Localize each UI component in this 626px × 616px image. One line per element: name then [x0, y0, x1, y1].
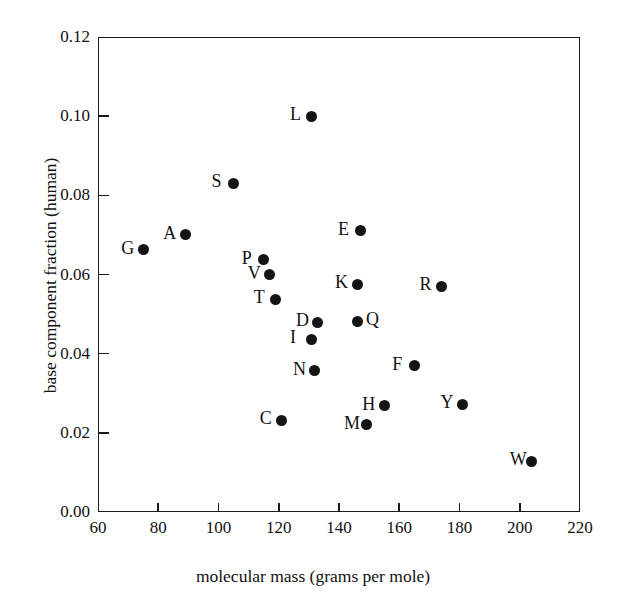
x-tick-mark — [519, 503, 521, 512]
x-tick-mark — [459, 503, 461, 512]
data-point-label: S — [212, 172, 222, 190]
y-axis-title: base component fraction (human) — [40, 36, 61, 516]
x-tick-label: 120 — [249, 519, 309, 536]
data-point-label: M — [344, 414, 360, 432]
y-tick-mark — [98, 353, 109, 355]
scatter-plot-figure: GASPVTCLINDQKEMHFRYW 6080100120140160180… — [0, 0, 626, 616]
x-tick-mark — [218, 503, 220, 512]
data-point[interactable] — [306, 334, 317, 345]
data-point-label: C — [260, 409, 272, 427]
data-point-label: V — [248, 264, 261, 282]
y-tick-mark — [98, 274, 109, 276]
data-point[interactable] — [352, 279, 363, 290]
data-point-label: N — [293, 360, 306, 378]
data-point-label: G — [121, 239, 134, 257]
data-point-label: E — [338, 220, 349, 238]
data-point[interactable] — [270, 294, 281, 305]
data-point-label: Y — [441, 393, 454, 411]
x-tick-label: 200 — [490, 519, 550, 536]
x-tick-label: 160 — [369, 519, 429, 536]
data-point[interactable] — [361, 419, 372, 430]
data-point-label: A — [163, 224, 176, 242]
x-tick-label: 60 — [68, 519, 128, 536]
data-point[interactable] — [352, 316, 363, 327]
y-tick-mark — [98, 432, 109, 434]
data-point[interactable] — [355, 225, 366, 236]
data-point[interactable] — [228, 178, 239, 189]
data-point-label: Q — [366, 310, 379, 328]
x-tick-label: 80 — [128, 519, 188, 536]
data-point-label: D — [296, 311, 309, 329]
x-tick-label: 220 — [550, 519, 610, 536]
data-point[interactable] — [309, 365, 320, 376]
data-point[interactable] — [409, 360, 420, 371]
data-point[interactable] — [379, 400, 390, 411]
x-tick-mark — [157, 503, 159, 512]
data-point[interactable] — [526, 456, 537, 467]
x-tick-mark — [338, 503, 340, 512]
x-axis-title: molecular mass (grams per mole) — [0, 566, 626, 587]
x-tick-mark — [398, 503, 400, 512]
data-point[interactable] — [312, 317, 323, 328]
data-point[interactable] — [180, 229, 191, 240]
data-point-label: F — [392, 355, 402, 373]
data-point-label: L — [290, 105, 301, 123]
y-tick-mark — [98, 195, 109, 197]
plot-data-area: GASPVTCLINDQKEMHFRYW — [98, 37, 580, 512]
data-point[interactable] — [138, 244, 149, 255]
data-point[interactable] — [276, 415, 287, 426]
data-point-label: K — [335, 273, 348, 291]
data-point-label: W — [510, 450, 527, 468]
y-tick-mark — [98, 115, 109, 117]
data-point[interactable] — [436, 281, 447, 292]
x-tick-label: 100 — [189, 519, 249, 536]
data-point-label: H — [362, 395, 375, 413]
data-point-label: T — [254, 288, 265, 306]
data-point[interactable] — [264, 269, 275, 280]
x-tick-mark — [278, 503, 280, 512]
data-point-label: R — [419, 275, 431, 293]
data-point[interactable] — [457, 399, 468, 410]
x-tick-label: 180 — [430, 519, 490, 536]
x-tick-label: 140 — [309, 519, 369, 536]
data-point[interactable] — [306, 111, 317, 122]
data-point-label: I — [290, 328, 296, 346]
